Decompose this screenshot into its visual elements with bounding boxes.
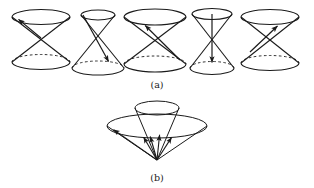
- panel-a: (a): [12, 9, 299, 91]
- caption-b: (b): [150, 172, 164, 183]
- cone-a-1: [12, 10, 70, 70]
- cone-edge-right: [190, 14, 232, 68]
- bottom-ring-front: [241, 63, 299, 71]
- vector-arrow: [19, 19, 42, 38]
- panel-b: (b): [107, 101, 207, 183]
- vector-arrow-inner-left: [144, 137, 157, 160]
- inner-ring: [135, 101, 179, 115]
- bottom-ring-back: [72, 61, 124, 68]
- cone-a-3: [124, 9, 186, 72]
- figure-container: (a) (b): [0, 0, 314, 188]
- cone-edge-right: [72, 15, 115, 68]
- top-ring: [81, 10, 115, 20]
- cone-a-5: [241, 10, 299, 71]
- top-ring: [241, 10, 299, 25]
- bottom-ring-front: [124, 64, 186, 72]
- cone-a-4: [190, 9, 234, 75]
- caption-a: (a): [150, 79, 163, 90]
- outer-ring-back: [107, 114, 207, 126]
- bottom-ring-front: [72, 68, 124, 75]
- vector-arrow: [250, 26, 278, 52]
- vector-arrow: [83, 15, 109, 62]
- top-ring: [12, 10, 70, 25]
- bottom-ring-front: [12, 62, 70, 70]
- cone-edge-left: [192, 14, 234, 68]
- vector-arrow: [145, 26, 180, 61]
- cone-a-2: [72, 10, 124, 75]
- figure-svg: (a) (b): [0, 0, 314, 188]
- top-ring: [124, 9, 186, 25]
- bottom-ring-front: [190, 68, 234, 75]
